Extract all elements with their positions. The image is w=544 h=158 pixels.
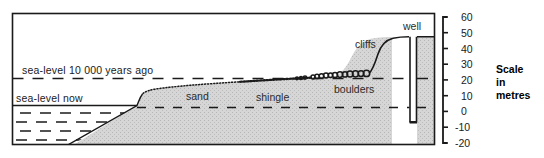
label-sea-level-past: sea-level 10 000 years ago bbox=[22, 64, 153, 76]
label-shingle: shingle bbox=[256, 91, 289, 103]
scale-axis: 60 50 40 30 20 10 0 -10 -20 Scale in met… bbox=[443, 11, 531, 149]
label-cliffs: cliffs bbox=[355, 38, 376, 50]
label-sea-level-now: sea-level now bbox=[16, 92, 83, 104]
scale-tick-40: 40 bbox=[461, 43, 473, 55]
plateau-fill-right bbox=[417, 37, 435, 145]
scale-caption-line2: in bbox=[496, 76, 505, 88]
scale-tick-20: 20 bbox=[461, 74, 473, 86]
scale-tick-30: 30 bbox=[461, 58, 473, 70]
cross-section-frame bbox=[13, 14, 435, 147]
well-shaft bbox=[410, 37, 418, 123]
scale-tick-0: 0 bbox=[461, 105, 467, 117]
scale-tick-neg20: -20 bbox=[455, 137, 470, 149]
scale-caption-line1: Scale bbox=[496, 63, 524, 75]
diagram-stage: sea-level 10 000 years ago sea-level now… bbox=[0, 0, 544, 158]
label-well: well bbox=[402, 20, 421, 32]
label-boulders: boulders bbox=[334, 83, 374, 95]
scale-tick-10: 10 bbox=[461, 90, 473, 102]
coastal-cross-section-diagram: sea-level 10 000 years ago sea-level now… bbox=[0, 0, 544, 158]
scale-tick-60: 60 bbox=[461, 11, 473, 23]
scale-tick-50: 50 bbox=[461, 27, 473, 39]
scale-tick-neg10: -10 bbox=[455, 121, 470, 133]
label-sand: sand bbox=[186, 90, 209, 102]
scale-caption-line3: metres bbox=[496, 89, 531, 101]
